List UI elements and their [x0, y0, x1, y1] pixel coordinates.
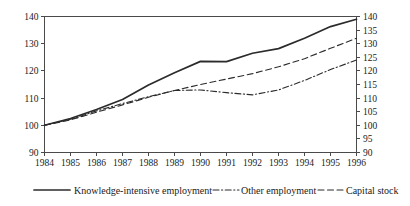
- y-right-tick-label: 125: [363, 53, 378, 63]
- x-tick-label: 1988: [139, 158, 158, 168]
- x-tick-label: 1986: [87, 158, 106, 168]
- x-tick-label: 1984: [35, 158, 54, 168]
- y-left-tick-label: 90: [29, 148, 39, 158]
- y-left-tick-label: 140: [24, 12, 39, 22]
- y-left-tick-label: 120: [24, 66, 39, 76]
- y-left-tick-label: 100: [24, 121, 39, 131]
- x-tick-label: 1996: [347, 158, 366, 168]
- x-tick-label: 1989: [165, 158, 184, 168]
- y-right-tick-label: 105: [363, 107, 378, 117]
- y-right-tick-label: 115: [363, 80, 377, 90]
- x-tick-label: 1992: [243, 158, 262, 168]
- x-tick-label: 1994: [295, 158, 314, 168]
- x-tick-label: 1995: [321, 158, 340, 168]
- chart-background: [0, 0, 410, 206]
- chart-figure: 90100110120130140 9095100105110115120125…: [0, 0, 410, 206]
- y-right-tick-label: 130: [363, 39, 378, 49]
- x-tick-label: 1987: [113, 158, 132, 168]
- y-right-tick-label: 110: [363, 94, 377, 104]
- y-left-tick-label: 110: [25, 94, 39, 104]
- x-tick-label: 1991: [217, 158, 236, 168]
- y-right-tick-label: 90: [363, 148, 373, 158]
- y-right-tick-label: 95: [363, 134, 373, 144]
- legend-item-label: Capital stock: [346, 185, 399, 196]
- x-tick-label: 1993: [269, 158, 288, 168]
- legend-item-label: Other employment: [241, 185, 316, 196]
- x-tick-label: 1985: [61, 158, 80, 168]
- y-right-tick-label: 100: [363, 121, 378, 131]
- y-right-tick-label: 135: [363, 26, 378, 36]
- x-tick-label: 1990: [191, 158, 210, 168]
- y-right-tick-label: 120: [363, 66, 378, 76]
- y-right-tick-label: 140: [363, 12, 378, 22]
- y-left-tick-label: 130: [24, 39, 39, 49]
- legend-item-label: Knowledge-intensive employment: [74, 185, 212, 196]
- line-chart: 90100110120130140 9095100105110115120125…: [0, 0, 410, 206]
